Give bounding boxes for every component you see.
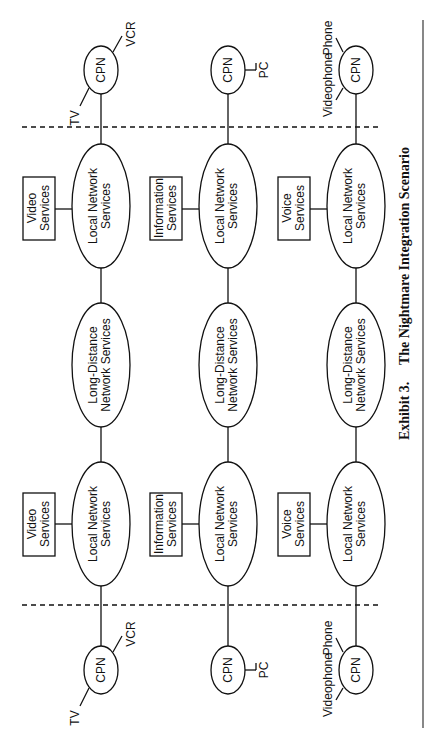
svg-text:PC: PC bbox=[257, 661, 271, 678]
device-label-videophone: Videophone bbox=[321, 53, 335, 117]
svg-text:TV: TV bbox=[68, 710, 82, 725]
cpn-top-voice: CPN Videophone Phone bbox=[321, 20, 373, 117]
svg-text:CPN: CPN bbox=[349, 657, 363, 682]
svg-text:Long-Distance: Long-Distance bbox=[341, 326, 355, 404]
nightmare-integration-diagram: CPN TV VCR Local Network Services Video … bbox=[0, 0, 440, 744]
svg-text:Information: Information bbox=[152, 178, 166, 238]
svg-text:Services: Services bbox=[38, 501, 52, 547]
svg-text:Local Network: Local Network bbox=[213, 167, 227, 244]
svg-text:Network Services: Network Services bbox=[226, 318, 240, 411]
svg-text:Services: Services bbox=[165, 501, 179, 547]
svg-text:Local Network: Local Network bbox=[86, 167, 100, 244]
cpn-top-video: CPN TV VCR bbox=[68, 21, 138, 126]
long-distance-video: Long-Distance Network Services bbox=[72, 303, 130, 427]
svg-text:Network Services: Network Services bbox=[354, 318, 368, 411]
svg-text:Services: Services bbox=[293, 501, 307, 547]
svg-text:VCR: VCR bbox=[124, 621, 138, 647]
caption-label: Exhibit 3. bbox=[397, 382, 412, 440]
cpn-label: CPN bbox=[94, 57, 108, 82]
row-voice: CPN Videophone Phone Local Network Servi… bbox=[278, 20, 385, 717]
svg-text:Information: Information bbox=[152, 494, 166, 554]
svg-text:Local Network: Local Network bbox=[86, 485, 100, 562]
svg-text:Services: Services bbox=[293, 185, 307, 231]
cpn-bottom-information: CPN PC bbox=[211, 646, 271, 694]
svg-text:Phone: Phone bbox=[321, 620, 335, 655]
local-network-bottom-voice: Local Network Services bbox=[327, 462, 385, 586]
svg-text:CPN: CPN bbox=[221, 657, 235, 682]
svg-text:Voice: Voice bbox=[280, 509, 294, 539]
device-label-tv: TV bbox=[68, 110, 82, 125]
cpn-bottom-video: CPN TV VCR bbox=[68, 621, 138, 726]
caption-title: The Nightmare Integration Scenario bbox=[397, 147, 412, 365]
figure-caption: Exhibit 3. The Nightmare Integration Sce… bbox=[397, 147, 412, 440]
svg-text:CPN: CPN bbox=[221, 57, 235, 82]
svg-text:CPN: CPN bbox=[94, 657, 108, 682]
cpn-top-information: CPN PC bbox=[211, 46, 271, 94]
service-box-top-voice: Voice Services bbox=[278, 177, 310, 240]
service-box-bottom-information: Information Services bbox=[150, 493, 182, 556]
local-network-top-video: Local Network Services bbox=[72, 144, 130, 268]
svg-text:Services: Services bbox=[354, 183, 368, 229]
local-network-top-information: Local Network Services bbox=[199, 144, 257, 268]
device-label-pc: PC bbox=[257, 61, 271, 78]
svg-text:Local Network: Local Network bbox=[341, 167, 355, 244]
svg-text:Long-Distance: Long-Distance bbox=[213, 326, 227, 404]
long-distance-voice: Long-Distance Network Services bbox=[327, 303, 385, 427]
svg-text:CPN: CPN bbox=[349, 57, 363, 82]
svg-text:Video: Video bbox=[25, 192, 39, 223]
local-network-bottom-video: Local Network Services bbox=[72, 462, 130, 586]
device-label-vcr: VCR bbox=[124, 21, 138, 47]
local-network-top-voice: Local Network Services bbox=[327, 144, 385, 268]
local-network-bottom-information: Local Network Services bbox=[199, 462, 257, 586]
svg-text:Local Network: Local Network bbox=[341, 485, 355, 562]
service-box-top-video: Video Services bbox=[23, 177, 55, 240]
svg-text:Videophone: Videophone bbox=[321, 653, 335, 717]
service-box-bottom-video: Video Services bbox=[23, 493, 55, 556]
svg-text:Services: Services bbox=[99, 501, 113, 547]
long-distance-information: Long-Distance Network Services bbox=[199, 303, 257, 427]
svg-text:Local Network: Local Network bbox=[213, 485, 227, 562]
svg-text:Services: Services bbox=[226, 183, 240, 229]
svg-text:Services: Services bbox=[226, 501, 240, 547]
row-information: CPN PC Local Network Services Informatio… bbox=[150, 46, 271, 694]
svg-text:Services: Services bbox=[165, 185, 179, 231]
svg-text:Services: Services bbox=[99, 183, 113, 229]
svg-text:Video: Video bbox=[25, 508, 39, 539]
service-box-top-information: Information Services bbox=[150, 177, 182, 240]
svg-text:Services: Services bbox=[354, 501, 368, 547]
svg-text:Services: Services bbox=[38, 185, 52, 231]
cpn-bottom-voice: CPN Videophone Phone bbox=[321, 620, 373, 717]
svg-text:Voice: Voice bbox=[280, 193, 294, 223]
svg-text:Long-Distance: Long-Distance bbox=[86, 326, 100, 404]
service-box-bottom-voice: Voice Services bbox=[278, 493, 310, 556]
device-label-phone: Phone bbox=[321, 20, 335, 55]
svg-text:Network Services: Network Services bbox=[99, 318, 113, 411]
